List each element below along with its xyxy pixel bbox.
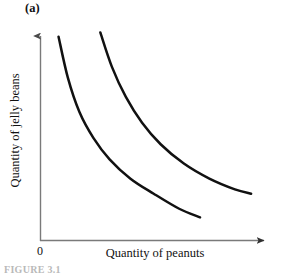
x-axis-title: Quantity of peanuts [40, 247, 270, 260]
figure-container: (a) 0 Quantity of jelly beans Quantity o… [0, 0, 281, 273]
plot-area [0, 0, 281, 273]
indifference-curve-2 [100, 32, 251, 193]
indifference-curve-1 [59, 37, 201, 218]
y-axis-title: Quantity of jelly beans [4, 25, 26, 236]
figure-caption: FIGURE 3.1 [4, 265, 61, 273]
